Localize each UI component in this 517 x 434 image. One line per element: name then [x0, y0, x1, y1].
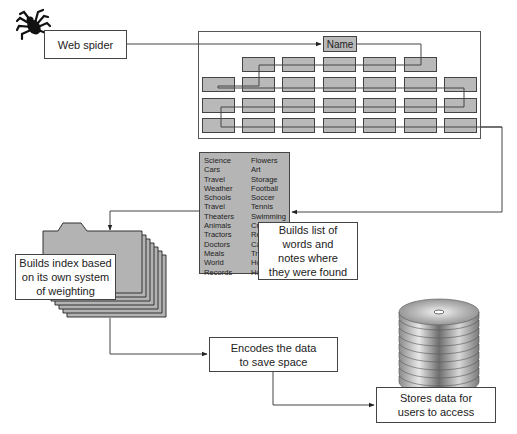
encode-to-store-arrow — [273, 372, 374, 405]
page-to-list-arrow — [292, 127, 502, 212]
index-to-encode-arrow — [110, 318, 207, 354]
list-to-index-arrow — [110, 211, 199, 230]
crawl-path — [218, 44, 502, 127]
connectors — [0, 0, 517, 434]
